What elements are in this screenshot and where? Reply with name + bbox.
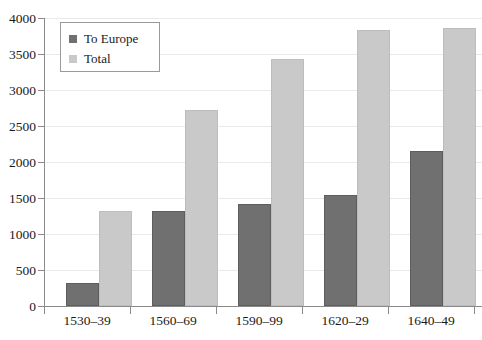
- x-tick-sep-3: [302, 307, 303, 314]
- x-tick-label-1560-69: 1560–69: [130, 314, 216, 328]
- x-tick-label-1620-29: 1620–29: [302, 314, 388, 328]
- y-tick-mark-4000: [38, 18, 45, 19]
- x-tick-sep-5: [474, 307, 475, 314]
- y-tick-mark-2000: [38, 162, 45, 163]
- y-tick-label-2000: 2000: [0, 156, 36, 170]
- legend-entry-total: Total: [69, 52, 111, 65]
- y-tick-label-1500: 1500: [0, 192, 36, 206]
- y-tick-mark-3000: [38, 90, 45, 91]
- x-tick-sep-4: [388, 307, 389, 314]
- x-tick-label-1590-99: 1590–99: [216, 314, 302, 328]
- legend-label-to-europe: To Europe: [84, 32, 138, 45]
- y-tick-label-500: 500: [0, 264, 36, 278]
- y-tick-label-3500: 3500: [0, 48, 36, 62]
- y-tick-mark-3500: [38, 54, 45, 55]
- y-tick-mark-500: [38, 270, 45, 271]
- bar-chart: 4000 3500 3000 2500 2000 1500 1000 500 0…: [0, 0, 482, 340]
- x-tick-sep-2: [216, 307, 217, 314]
- x-tick-label-1530-39: 1530–39: [44, 314, 130, 328]
- x-tick-sep-1: [130, 307, 131, 314]
- legend-label-total: Total: [84, 52, 111, 65]
- x-tick-label-1640-49: 1640–49: [388, 314, 474, 328]
- legend-entry-to-europe: To Europe: [69, 32, 138, 45]
- legend-swatch-icon-to-europe: [69, 35, 77, 43]
- y-tick-label-2500: 2500: [0, 120, 36, 134]
- legend: To Europe Total: [60, 22, 160, 72]
- legend-swatch-icon-total: [69, 55, 77, 63]
- y-tick-mark-2500: [38, 126, 45, 127]
- y-tick-label-0: 0: [0, 300, 36, 314]
- y-tick-label-3000: 3000: [0, 84, 36, 98]
- x-tick-sep-0: [44, 307, 45, 314]
- y-tick-label-4000: 4000: [0, 12, 36, 26]
- y-tick-label-1000: 1000: [0, 228, 36, 242]
- y-tick-mark-1000: [38, 234, 45, 235]
- y-tick-mark-1500: [38, 198, 45, 199]
